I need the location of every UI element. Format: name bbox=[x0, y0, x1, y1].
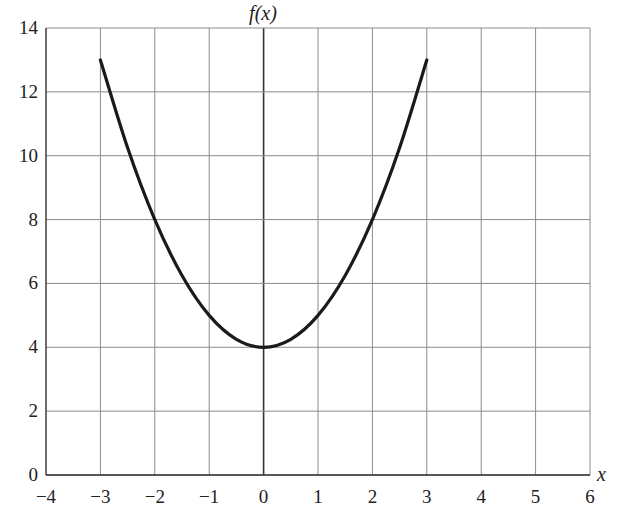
y-tick-label: 8 bbox=[29, 209, 39, 230]
x-tick-label: −3 bbox=[90, 486, 110, 507]
x-tick-label: 1 bbox=[313, 486, 323, 507]
x-tick-label: 6 bbox=[585, 486, 595, 507]
y-tick-label: 2 bbox=[29, 400, 39, 421]
y-tick-label: 4 bbox=[29, 336, 39, 357]
grid-lines bbox=[46, 28, 590, 475]
y-tick-labels: 02468101214 bbox=[19, 17, 39, 485]
chart: −4−3−2−10123456 02468101214 x f(x) bbox=[0, 0, 620, 529]
y-tick-label: 12 bbox=[19, 81, 38, 102]
x-tick-label: 2 bbox=[368, 486, 378, 507]
x-tick-label: 3 bbox=[422, 486, 432, 507]
x-tick-labels: −4−3−2−10123456 bbox=[36, 486, 595, 507]
x-tick-label: −4 bbox=[36, 486, 57, 507]
x-tick-label: 4 bbox=[476, 486, 486, 507]
x-tick-label: −2 bbox=[145, 486, 165, 507]
x-axis-label: x bbox=[596, 463, 606, 485]
x-tick-label: 5 bbox=[531, 486, 541, 507]
y-tick-label: 6 bbox=[29, 272, 39, 293]
y-tick-label: 0 bbox=[29, 464, 39, 485]
y-tick-label: 14 bbox=[19, 17, 39, 38]
y-axis-label: f(x) bbox=[249, 2, 277, 25]
x-tick-label: −1 bbox=[199, 486, 219, 507]
x-tick-label: 0 bbox=[259, 486, 269, 507]
y-tick-label: 10 bbox=[19, 145, 38, 166]
